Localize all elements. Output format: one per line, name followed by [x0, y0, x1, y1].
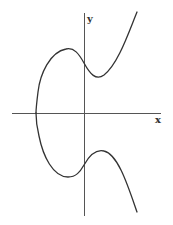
- curve-lower-branch: [36, 113, 137, 212]
- x-axis-label: x: [155, 115, 161, 125]
- elliptic-curve-diagram: [0, 0, 173, 225]
- curve-upper-branch: [36, 12, 137, 113]
- y-axis-label: y: [87, 14, 93, 24]
